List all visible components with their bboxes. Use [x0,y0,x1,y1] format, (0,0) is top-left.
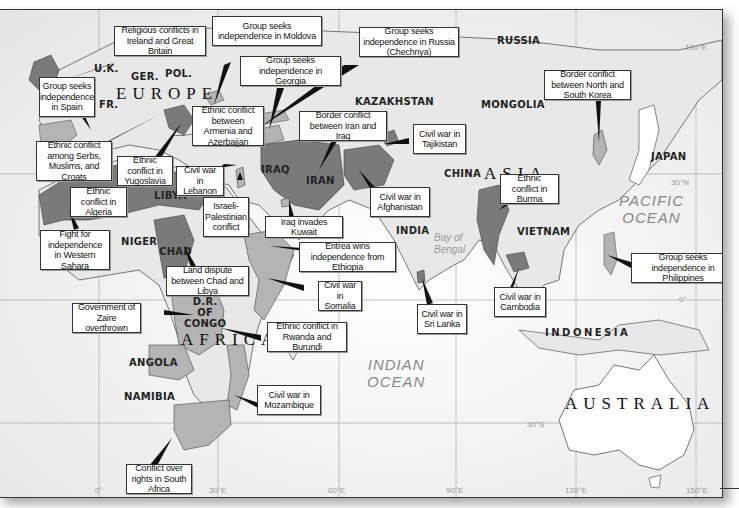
country-drc: D.R. OF CONGO [184,296,226,329]
callout-chechnya: Group seeks independence in Russia (Chec… [359,27,459,57]
country-china: CHINA [444,168,481,179]
ocean-pacific-line2: OCEAN [619,209,684,226]
label-lon-90e: 90°E [446,486,463,495]
callout-somalia: Civil war in Somalia [318,281,362,311]
callout-philippines: Group seeks independence in Philippines [631,253,723,283]
bay-line1: Bay of [434,232,465,244]
ocean-pacific-line1: PACIFIC [619,192,684,209]
country-indonesia: INDONESIA [545,327,630,338]
callout-moldova: Group seeks independence in Moldova [212,16,322,46]
country-germany: GER. [131,71,159,82]
label-lat-30s: 30°S [527,420,544,429]
country-vietnam: VIETNAM [517,226,570,237]
country-iraq: IRAQ [261,164,290,175]
callout-cambodia: Civil war in Cambodia [494,287,546,317]
label-lat-0: 0° [679,295,687,304]
continent-africa: AFRICA [181,330,279,350]
bottom-rule [720,488,739,489]
callout-yugoslavia: Ethnic conflict in Yugoslavia [117,156,173,186]
callout-rwanda: Ethnic conflict in Rwanda and Burundi [267,322,347,352]
map-frame: 0° 30°E 60°E 90°E 120°E 150°E 150°E 30°N… [0,9,723,498]
country-france: FR. [99,99,118,110]
bay-of-bengal: Bay of Bengal [434,232,465,256]
ocean-indian: INDIAN OCEAN [367,356,425,390]
country-namibia: NAMIBIA [124,391,175,402]
callout-south-africa: Conflict over rights in South Africa [126,464,192,494]
label-lon-60e: 60°E [328,486,345,495]
callout-ireland: Religious conflicts in Ireland and Great… [114,26,206,56]
callout-chad-libya: Land dispute between Chad and Libya [166,266,249,296]
country-mongolia: MONGOLIA [481,99,545,110]
country-niger: NIGER [121,236,157,247]
callout-sri-lanka: Civil war in Sri Lanka [417,304,467,334]
country-japan: JAPAN [651,151,686,162]
country-india: INDIA [396,225,429,236]
callout-serbs: Ethnic conflict among Serbs, Muslims, an… [36,141,112,181]
ocean-indian-line2: OCEAN [367,373,425,390]
country-poland: POL. [165,68,192,79]
callout-mozambique: Civil war in Mozambique [257,385,321,415]
label-lon-30e: 30°E [209,486,226,495]
callout-korea: Border conflict between North and South … [544,70,631,100]
callout-kuwait: Iraq invades Kuwait [265,216,343,238]
country-chad: CHAD [159,246,192,257]
callout-zaire: Government of Zaire overthrown [72,303,141,333]
ocean-indian-line1: INDIAN [367,356,425,373]
country-iran: IRAN [306,175,335,186]
callout-spain: Group seeks independence in Spain [39,77,95,117]
country-angola: ANGOLA [129,357,178,368]
continent-europe: EUROPE [116,84,218,104]
callout-burma: Ethnic conflict in Burma [500,174,559,204]
label-lat-30n: 30°N [671,178,689,187]
callout-eritrea: Eritrea wins independence from Ethiopia [299,242,396,272]
country-russia: RUSSIA [497,35,540,46]
callout-georgia: Group seeks independence in Georgia [240,56,341,86]
callout-algeria: Ethnic conflict in Algeria [70,187,127,217]
bay-line2: Bengal [434,244,465,256]
label-lon-0: 0° [95,486,103,495]
continent-australia: AUSTRALIA [565,394,715,414]
label-lon-150e-bottom: 150°E [686,486,708,495]
callout-iran-iraq: Border conflict between Iran and Iraq [299,111,387,141]
callout-armenia: Ethnic conflict between Armenia and Azer… [192,106,264,146]
ocean-pacific: PACIFIC OCEAN [619,192,684,226]
label-lon-150e-top: 150°E [685,43,707,52]
callout-lebanon: Civil war in Lebanon [176,166,224,196]
country-kazakhstan: KAZAKHSTAN [355,96,434,107]
callout-israel: Israeli-Palestinian conflict [203,197,249,237]
callout-western-sahara: Fight for independence in Western Sahara [40,230,110,270]
callout-afghanistan: Civil war in Afghanistan [370,187,430,217]
label-lon-120e: 120°E [565,486,587,495]
callout-tajikistan: Civil war in Tajikistan [413,124,466,154]
country-uk: U.K. [94,63,119,74]
